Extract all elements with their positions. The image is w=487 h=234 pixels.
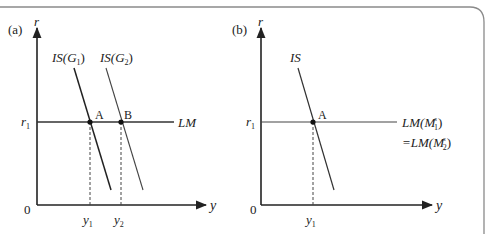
panel-b-y-axis-label: r — [258, 14, 264, 29]
panel-a-origin: 0 — [24, 202, 31, 217]
panel-a-point-a-label: A — [95, 108, 104, 122]
panel-b-origin: 0 — [250, 202, 257, 217]
panel-b-tag: (b) — [232, 22, 247, 37]
panel-b: (b) r y 0 r1 LM(Ms1) =LM(Ms2) IS A y1 — [232, 14, 451, 229]
panel-a-y-axis-label: r — [34, 14, 40, 29]
panel-a-r1-label: r1 — [21, 114, 30, 131]
panel-a-y2-label: y2 — [112, 212, 124, 229]
panel-b-y1-label: y1 — [304, 212, 316, 229]
panel-b-point-a-label: A — [318, 108, 327, 122]
panel-b-x-axis-label: y — [434, 198, 443, 213]
panel-b-lm-label-2: =LM(Ms2) — [402, 135, 451, 152]
panel-a-point-b-label: B — [124, 108, 132, 122]
panel-a-is2-label: IS(G2) — [99, 50, 133, 67]
panel-b-lm-label-1: LM(Ms1) — [401, 115, 442, 132]
panel-a-is2-curve — [106, 68, 143, 190]
is-lm-diagram: (a) r y 0 r1 LM IS(G1) IS(G2) A B y1 y2 … — [0, 0, 487, 234]
panel-a: (a) r y 0 r1 LM IS(G1) IS(G2) A B y1 y2 — [8, 14, 217, 229]
panel-a-x-axis-label: y — [208, 198, 217, 213]
panel-a-lm-label: LM — [177, 115, 197, 130]
panel-a-is1-curve — [74, 68, 111, 190]
panel-b-r1-label: r1 — [246, 114, 255, 131]
panel-a-is1-label: IS(G1) — [51, 50, 85, 67]
panel-b-is-curve — [298, 68, 334, 190]
panel-a-point-a — [87, 119, 92, 124]
panel-a-y1-label: y1 — [81, 212, 93, 229]
panel-a-tag: (a) — [8, 22, 22, 37]
panel-b-is-label: IS — [289, 50, 301, 65]
panel-b-point-a — [310, 119, 315, 124]
panel-a-point-b — [118, 119, 123, 124]
